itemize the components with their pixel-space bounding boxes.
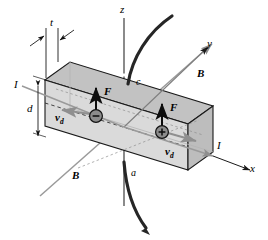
positive-carrier-velocity-label: vd (165, 146, 174, 160)
width-label: d (27, 103, 33, 114)
positive-velocity-subscript: d (170, 151, 174, 160)
negative-carrier-force-label: F (104, 86, 111, 97)
current-label-left: I (14, 79, 18, 90)
y-axis-label: y (207, 38, 212, 49)
z-axis-label: z (120, 4, 124, 15)
terminal-label-c: c (136, 77, 140, 87)
negative-carrier-velocity-label: vd (55, 112, 64, 126)
hall-effect-figure: z y x t d I I B B c a F vd F vd (0, 0, 268, 240)
width-dimension (33, 76, 46, 137)
figure-canvas (0, 0, 268, 240)
field-label-upper-right: B (197, 68, 204, 79)
current-label-right: I (217, 140, 221, 151)
thickness-label: t (50, 17, 53, 28)
negative-velocity-subscript: d (60, 117, 64, 126)
terminal-label-a: a (131, 168, 136, 178)
field-label-lower-left: B (72, 170, 79, 181)
positive-carrier-force-label: F (170, 102, 177, 113)
upper-terminal-wire (128, 16, 172, 84)
x-axis-label: x (250, 163, 255, 174)
